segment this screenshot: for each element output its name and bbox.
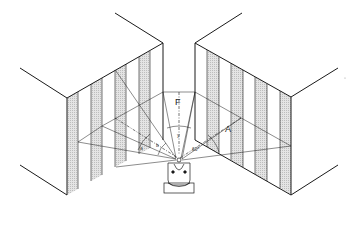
viewer-figure xyxy=(164,158,194,193)
small-dot xyxy=(344,77,345,78)
label-angle-60: 60° xyxy=(192,146,200,152)
label-y: y xyxy=(177,132,180,138)
label-b: b xyxy=(156,142,159,148)
left-stripe-1 xyxy=(67,92,78,195)
label-A: A xyxy=(225,124,231,134)
label-F: F xyxy=(175,97,181,107)
label-a: a xyxy=(140,145,143,151)
right-stripe-4 xyxy=(280,91,291,194)
right-stripe-2 xyxy=(231,63,243,167)
